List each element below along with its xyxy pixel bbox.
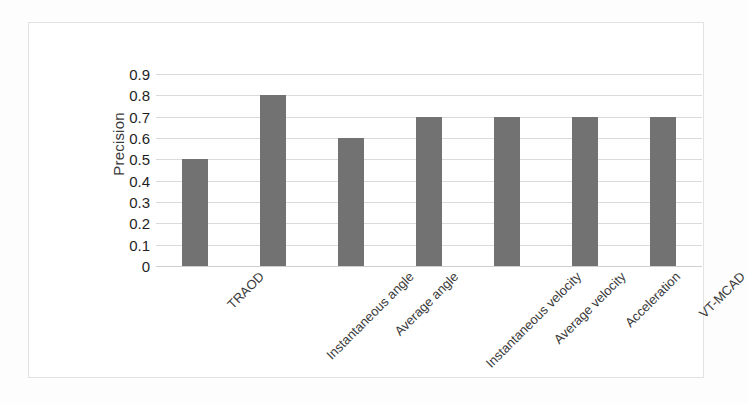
bar	[338, 138, 364, 266]
gridline	[156, 95, 702, 96]
y-axis-tick-label: 0.8	[106, 88, 150, 103]
x-axis-tick-labels: TRAODInstantaneous angleAverage angleIns…	[156, 269, 702, 389]
bar	[182, 159, 208, 266]
y-axis-tick-labels: 0.90.80.70.60.50.40.30.20.10	[104, 74, 150, 266]
y-axis-tick-label: 0	[106, 259, 150, 274]
chart-figure: Precision 0.90.80.70.60.50.40.30.20.10 T…	[28, 22, 704, 378]
y-axis-tick-label: 0.7	[106, 109, 150, 124]
y-axis-tick-label: 0.4	[106, 173, 150, 188]
y-axis-tick-label: 0.9	[106, 67, 150, 82]
y-axis-tick-label: 0.5	[106, 152, 150, 167]
gridline	[156, 266, 702, 267]
gridline	[156, 74, 702, 75]
bar	[494, 117, 520, 266]
bar	[572, 117, 598, 266]
y-axis-tick-label: 0.6	[106, 131, 150, 146]
y-axis-tick-label: 0.3	[106, 195, 150, 210]
y-axis-tick-label: 0.1	[106, 237, 150, 252]
plot-area	[156, 74, 702, 266]
bar	[260, 95, 286, 266]
bar	[650, 117, 676, 266]
x-axis-tick-label: TRAOD	[224, 269, 267, 312]
x-axis-tick-label: VT-MCAD	[696, 269, 748, 321]
x-axis-tick-label: Acceleration	[622, 269, 683, 330]
bar	[416, 117, 442, 266]
y-axis-tick-label: 0.2	[106, 216, 150, 231]
